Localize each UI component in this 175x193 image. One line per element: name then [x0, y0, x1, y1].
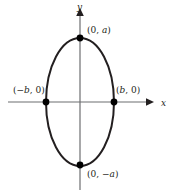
label-bottom-vertex: (0, −a) — [87, 170, 118, 179]
label-top-vertex: (0, a) — [87, 26, 111, 35]
label-right-close: , 0) — [125, 85, 140, 95]
label-left-close: , 0) — [30, 85, 45, 95]
x-axis-label: x — [161, 99, 166, 108]
label-bottom-close: ) — [115, 169, 119, 179]
point-bottom-vertex — [77, 162, 84, 169]
label-top-close: ) — [107, 25, 111, 35]
point-left-vertex — [43, 99, 50, 106]
y-axis-label: y — [77, 3, 82, 12]
label-right-vertex: (b, 0) — [116, 86, 140, 95]
label-left-vertex: (−b, 0) — [13, 86, 45, 95]
label-left-open: (− — [13, 85, 24, 95]
point-right-vertex — [111, 99, 118, 106]
label-bottom-open: (0, − — [87, 169, 110, 179]
x-axis-arrowhead-icon — [146, 98, 154, 106]
ellipse-figure: y x (0, a) (0, −a) (−b, 0) (b, 0) — [0, 0, 175, 193]
label-top-open: (0, — [87, 25, 102, 35]
point-top-vertex — [77, 35, 84, 42]
